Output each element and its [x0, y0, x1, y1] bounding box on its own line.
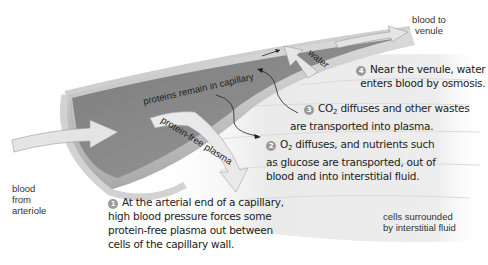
step-2-badge: 2 — [266, 141, 276, 151]
step-4-text: 4Near the venule, water enters blood by … — [356, 62, 485, 90]
step-3-text: 3CO2 diffuses and other wastes are trans… — [304, 101, 469, 133]
capillary-diagram: proteins remain in capillary protein-fre… — [0, 0, 488, 265]
step-4-badge: 4 — [356, 66, 366, 76]
step-1-badge: 1 — [108, 199, 118, 209]
label-blood-to-venule: blood to venule — [399, 14, 459, 36]
step-1-text: 1At the arterial end of a capillary, hig… — [108, 195, 284, 251]
step-3-badge: 3 — [304, 105, 314, 115]
step-2-text: 2O2 diffuses, and nutrients such as gluc… — [266, 137, 436, 183]
label-cells-surrounded: cells surrounded by interstitial fluid — [383, 211, 456, 233]
label-blood-from-arteriole: blood from arteriole — [12, 183, 46, 216]
